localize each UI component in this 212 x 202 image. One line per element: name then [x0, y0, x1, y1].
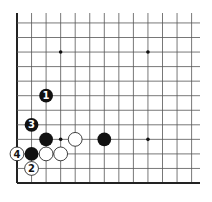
- stone-disc: [39, 132, 53, 146]
- black-stone: [39, 132, 53, 146]
- white-stone-4: 4: [10, 147, 24, 161]
- move-number-label: 4: [14, 149, 21, 160]
- stone-disc: [97, 132, 111, 146]
- black-stone-1: 1: [39, 89, 53, 103]
- star-point: [146, 50, 150, 54]
- move-number-label: 3: [28, 119, 35, 130]
- white-stone: [54, 147, 68, 161]
- stone-disc: [39, 147, 53, 161]
- white-stone: [39, 147, 53, 161]
- star-point: [59, 50, 63, 54]
- star-point: [146, 138, 150, 142]
- stone-disc: [54, 147, 68, 161]
- white-stone-2: 2: [25, 162, 39, 176]
- star-point: [59, 138, 63, 142]
- black-stone: [25, 147, 39, 161]
- move-number-label: 1: [43, 90, 50, 101]
- black-stone: [97, 132, 111, 146]
- black-stone-3: 3: [25, 118, 39, 132]
- white-stone: [68, 132, 82, 146]
- go-board: 1342: [0, 0, 212, 202]
- stone-disc: [68, 132, 82, 146]
- stone-disc: [25, 147, 39, 161]
- move-number-label: 2: [28, 163, 35, 174]
